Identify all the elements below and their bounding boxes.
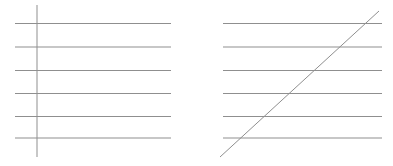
figure-svg — [0, 0, 393, 166]
right-diagonal-transversal — [220, 11, 379, 157]
parallel-lines-figure — [0, 0, 393, 166]
